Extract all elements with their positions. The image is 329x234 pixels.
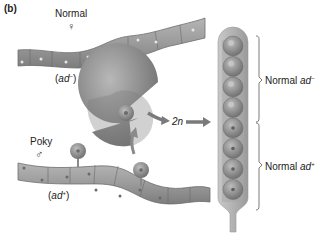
ascospore-nucleus (231, 188, 235, 192)
male-symbol-icon: ♂ (35, 149, 43, 160)
panel-label: (b) (4, 4, 17, 14)
ascospore (223, 98, 243, 118)
female-symbol-icon: ♀ (67, 21, 75, 32)
ascospore-highlight (228, 61, 234, 67)
ascus-group-label-bottom: Normal ad+ (265, 161, 315, 172)
top-strain-genotype: (ad−) (55, 73, 76, 84)
ascospore-nucleus (231, 147, 235, 151)
ascospore-highlight (228, 40, 234, 46)
conidium-1 (70, 143, 86, 167)
ascospore (223, 77, 243, 97)
ascospore-highlight (228, 102, 234, 108)
ascus-group-label-top: Normal ad− (265, 75, 315, 86)
ascospore-nucleus (231, 126, 235, 130)
ascospore-highlight (228, 81, 234, 87)
bracket-bottom (256, 123, 262, 210)
ascospore (223, 36, 243, 56)
diploid-label: 2n (172, 117, 183, 127)
bottom-strain-name: Poky (30, 137, 52, 147)
ascospore-nucleus (231, 167, 235, 171)
ascus (218, 27, 248, 232)
bracket-top (256, 36, 262, 122)
conidium-inside (118, 105, 134, 121)
bottom-hypha (18, 163, 210, 204)
top-strain-name: Normal (55, 9, 87, 19)
ascospore (223, 57, 243, 77)
bottom-strain-genotype: (ad+) (48, 190, 69, 201)
